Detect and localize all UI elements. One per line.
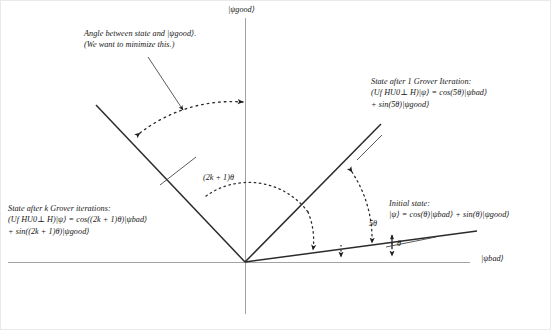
arc-angle-to-good [140, 102, 243, 133]
note-state-after-k-line3: + sin((2k + 1)θ)|ψgood⟩ [8, 226, 147, 237]
note-minimize-line2: (We want to minimize this.) [84, 39, 196, 50]
note-state-after-1-line3: + sin(5θ)|ψgood⟩ [371, 99, 487, 110]
note-state-after-1-line1: State after 1 Grover Iteration: [371, 76, 487, 87]
note-state-after-k: State after k Grover iterations: (Uf HU0… [8, 203, 147, 237]
figure-canvas: Angle between state and |ψgood⟩. (We wan… [0, 0, 552, 331]
note-minimize-angle: Angle between state and |ψgood⟩. (We wan… [84, 28, 196, 51]
note-state-after-k-line1: State after k Grover iterations: [8, 203, 147, 214]
note-state-after-k-line2: (Uf HU0⊥ H)|ψ⟩ = cos((2k + 1)θ)|ψbad⟩ [8, 214, 147, 225]
angle-label-2k1-theta: (2k + 1)θ [203, 173, 234, 182]
arc-5-theta [352, 172, 372, 243]
arc-2k1-theta [206, 182, 308, 212]
diagram-vectors [0, 0, 552, 331]
note-state-after-1: State after 1 Grover Iteration: (Uf HU0⊥… [371, 76, 487, 110]
ray-state-after-1 [245, 124, 381, 262]
note-state-after-1-line2: (Uf HU0⊥ H)|ψ⟩ = cos(5θ)|ψbad⟩ [371, 87, 487, 98]
note-initial-state: Initial state: |ψ⟩ = cos(θ)|ψbad⟩ + sin(… [389, 198, 510, 221]
angle-label-5-theta: 5θ [369, 219, 377, 228]
axis-label-good: |ψgood⟩ [228, 4, 255, 14]
ray-state-after-k [96, 105, 245, 262]
arc-2k1-drop [308, 212, 314, 250]
note-initial-state-line2: |ψ⟩ = cos(θ)|ψbad⟩ + sin(θ)|ψgood⟩ [389, 209, 510, 220]
axis-label-bad: |ψbad⟩ [481, 253, 504, 263]
leader-state-after-1 [357, 135, 382, 160]
leader-minimize-note [148, 57, 183, 110]
ray-initial-state [245, 231, 477, 262]
note-initial-state-line1: Initial state: [389, 198, 510, 209]
angle-label-theta: θ [397, 239, 401, 248]
note-minimize-line1: Angle between state and |ψgood⟩. [84, 28, 196, 39]
leader-state-after-k [160, 157, 196, 185]
